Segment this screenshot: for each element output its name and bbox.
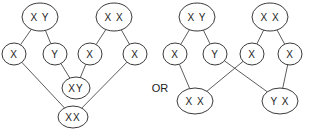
- edge-r_x1-to-r_xx_bot: [179, 64, 189, 88]
- node-label: Y: [211, 49, 219, 60]
- node-label: Y: [51, 49, 59, 60]
- node-label: X X: [104, 12, 123, 23]
- edge-r_x2-to-r_xx_bot: [207, 61, 243, 91]
- node-r_x1: X: [163, 43, 187, 65]
- diagram-nodes: X YX XXYXXXYXXX YX XXYXXX XY X: [2, 3, 302, 128]
- node-l_xx_top: X X: [96, 3, 132, 31]
- or-separator-label: OR: [152, 82, 169, 94]
- edge-r_x3-to-r_yx_bot: [283, 65, 288, 88]
- node-r_xx_bot: X X: [177, 88, 213, 114]
- node-r_x2: X: [240, 43, 264, 65]
- node-l_x3: X: [123, 43, 147, 65]
- node-label: X: [131, 49, 139, 60]
- edge-l_x2-to-l_xy_mid: [80, 64, 85, 77]
- node-l_xy_top: X Y: [22, 3, 58, 31]
- genetics-cross-diagram: X YX XXYXXXYXXX YX XXYXXX XY X OR: [0, 0, 309, 131]
- edge-l_x1-to-l_xx_bot: [22, 62, 65, 108]
- node-l_y1: Y: [43, 43, 67, 65]
- node-l_xx_bot: XX: [58, 106, 88, 128]
- node-label: X Y: [188, 12, 207, 23]
- edge-r_xy_top-to-r_x1: [181, 30, 190, 45]
- edge-l_xy_top-to-l_y1: [45, 30, 50, 43]
- node-r_y1: Y: [203, 43, 227, 65]
- node-l_x2: X: [78, 43, 102, 65]
- edge-r_y1-to-r_yx_bot: [224, 61, 267, 92]
- node-label: Y X: [271, 96, 290, 107]
- node-label: XX: [65, 112, 80, 123]
- edge-l_xx_top-to-l_x2: [96, 29, 106, 44]
- edge-r_xx_top-to-r_x2: [257, 30, 264, 44]
- node-label: X X: [260, 12, 279, 23]
- diagram-edges: [20, 29, 287, 108]
- node-label: X: [286, 49, 294, 60]
- edge-l_xy_top-to-l_x1: [20, 29, 31, 44]
- node-r_x3: X: [278, 43, 302, 65]
- node-r_yx_bot: Y X: [262, 88, 298, 114]
- edge-r_xx_top-to-r_x3: [277, 30, 285, 44]
- node-r_xy_top: X Y: [179, 3, 215, 31]
- node-l_xy_mid: XY: [62, 77, 90, 99]
- node-label: XY: [68, 83, 83, 94]
- node-l_x1: X: [2, 43, 26, 65]
- edge-l_xx_top-to-l_x3: [121, 30, 129, 44]
- edge-r_xy_top-to-r_y1: [203, 30, 210, 44]
- node-label: X: [10, 49, 18, 60]
- node-label: X: [171, 49, 179, 60]
- edge-l_y1-to-l_xy_mid: [61, 64, 70, 79]
- node-label: X: [86, 49, 94, 60]
- node-label: X Y: [31, 12, 50, 23]
- node-label: X: [248, 49, 256, 60]
- node-label: X X: [185, 96, 204, 107]
- node-r_xx_top: X X: [252, 3, 288, 31]
